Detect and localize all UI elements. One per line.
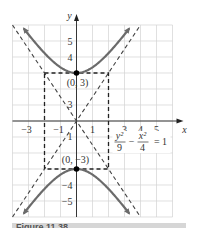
y-axis-arrow-icon — [74, 14, 79, 21]
y-tick-label: 4 — [68, 52, 73, 63]
point-label: (0, −3) — [62, 154, 89, 166]
equation-rhs: = 1 — [154, 136, 167, 147]
equation-denominator-9: 9 — [117, 142, 122, 153]
figure-caption-band: Figure 11.38 — [12, 223, 186, 228]
y-axis-label: y — [66, 10, 72, 21]
hyperbola-graph: −3−1134554−4−5xy31(0, 3)(0, −3)y²9−x²4= … — [0, 0, 199, 228]
x-tick-label: −3 — [21, 124, 32, 135]
x-tick-label: −1 — [53, 124, 64, 135]
y-tick-label: −4 — [62, 180, 73, 191]
figure-caption: Figure 11.38 — [16, 223, 68, 228]
point-label: (0, 3) — [67, 77, 89, 89]
equation-denominator-4: 4 — [140, 142, 145, 153]
equation-minus: − — [129, 136, 135, 147]
y-tick-label: −5 — [62, 196, 73, 207]
equation-numerator-x: x² — [138, 130, 147, 141]
vertex-point — [74, 166, 80, 172]
vertex-point — [74, 70, 80, 76]
x-tick-label: 1 — [90, 124, 95, 135]
labels: −3−1134554−4−5xy31(0, 3)(0, −3)y²9−x²4= … — [21, 10, 187, 207]
y-tick-label: 5 — [68, 36, 73, 47]
x-axis-arrow-icon — [177, 119, 184, 124]
x-axis-label: x — [181, 124, 187, 135]
y-tick-label-small: 3 — [68, 99, 73, 110]
equation-numerator-y: y² — [115, 130, 124, 141]
y-tick-label-small: 1 — [68, 131, 73, 142]
